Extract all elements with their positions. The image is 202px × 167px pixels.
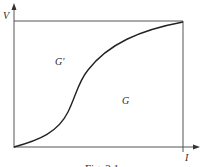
figure-diagram: V I G' G Fig. 3.1 [0,0,202,167]
x-axis-label: I [184,152,189,163]
y-axis-arrow-icon [12,3,17,10]
region-lower-label: G [122,95,129,106]
y-axis-label: V [3,10,11,21]
figure-caption: Fig. 3.1 [85,162,119,167]
region-upper-label: G' [55,56,65,67]
characteristic-curve [14,22,183,147]
x-axis-arrow-icon [193,145,200,150]
